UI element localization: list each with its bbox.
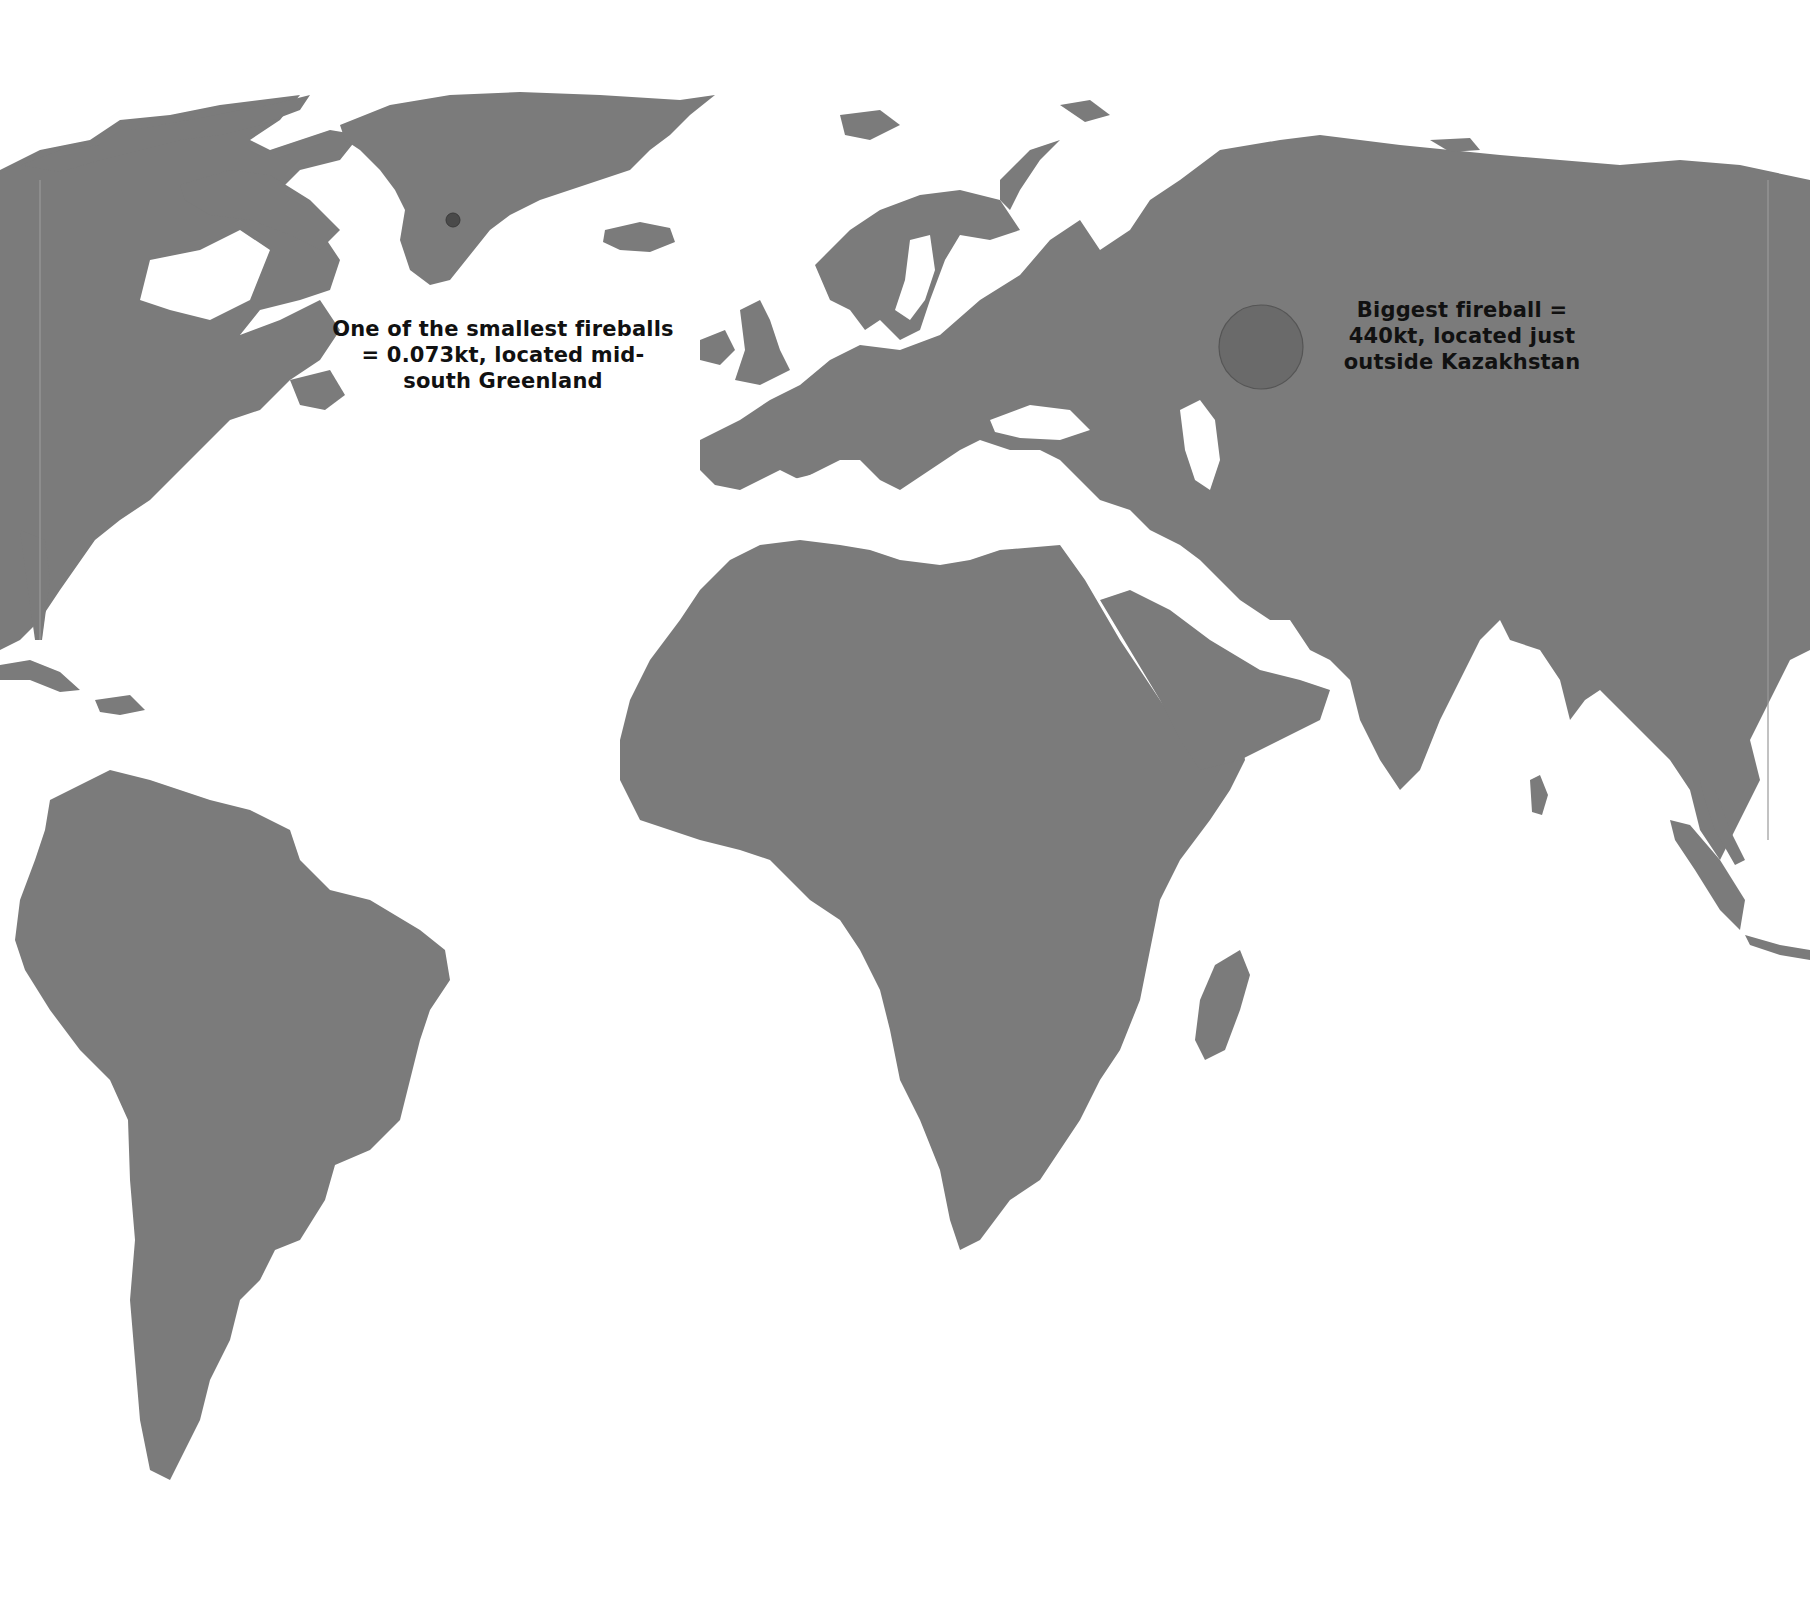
greenland [340,92,715,285]
uk [735,300,790,385]
biggest-fireball-label-line-2: 440kt, located just [1322,323,1602,349]
smallest-fireball-marker[interactable] [446,213,460,227]
madagascar [1195,950,1250,1060]
biggest-fireball-label: Biggest fireball = 440kt, located just o… [1322,297,1602,375]
novaya-zemlya [1000,140,1060,210]
smallest-fireball-label-line-2: = 0.073kt, located mid- [318,342,688,368]
java [1745,935,1810,960]
ireland [700,330,735,365]
biggest-fireball-label-line-1: Biggest fireball = [1322,297,1602,323]
hispaniola [95,695,145,715]
smallest-fireball-label-line-1: One of the smallest fireballs [318,316,688,342]
sri-lanka [1530,775,1548,815]
cuba [0,660,80,692]
smallest-fireball-label-line-3: south Greenland [318,368,688,394]
world-map [0,0,1810,1606]
south-america [15,770,450,1480]
mediterranean-sea [740,470,1020,540]
smallest-fireball-label: One of the smallest fireballs = 0.073kt,… [318,316,688,394]
iceland [603,222,675,252]
biggest-fireball-label-line-3: outside Kazakhstan [1322,349,1602,375]
severnaya-zemlya [1060,100,1110,122]
biggest-fireball-marker[interactable] [1219,305,1303,389]
north-america [0,95,360,650]
svalbard [840,110,900,140]
